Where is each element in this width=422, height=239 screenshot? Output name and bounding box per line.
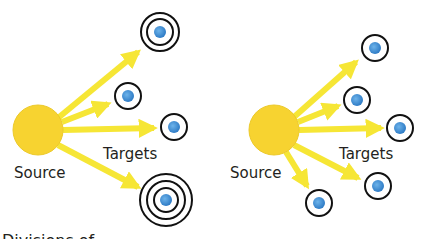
source-node bbox=[249, 105, 299, 155]
target-node bbox=[161, 114, 187, 140]
left-panel: Source Targets bbox=[13, 13, 192, 226]
target-node bbox=[344, 87, 370, 113]
target-node bbox=[141, 13, 179, 51]
target-node bbox=[387, 115, 413, 141]
source-label: Source bbox=[230, 164, 282, 182]
target-node bbox=[365, 173, 391, 199]
targets-label: Targets bbox=[102, 145, 157, 163]
target-node bbox=[306, 190, 332, 216]
target-node bbox=[115, 83, 141, 109]
target-node bbox=[362, 35, 388, 61]
target-node bbox=[140, 174, 192, 226]
arrows bbox=[286, 62, 381, 186]
targets-label: Targets bbox=[338, 145, 393, 163]
source-node bbox=[13, 105, 63, 155]
source-label: Source bbox=[14, 164, 66, 182]
right-panel: Source Targets bbox=[230, 35, 413, 216]
source-targets-diagram: Source Targets bbox=[0, 0, 422, 239]
footer-caption-cropped: Divisions of ... bbox=[2, 231, 115, 239]
arrows bbox=[58, 52, 154, 187]
